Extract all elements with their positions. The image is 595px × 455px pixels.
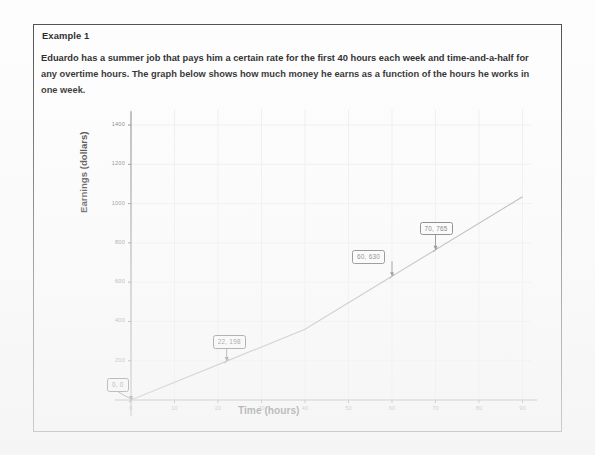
- x-tick-label: 60: [383, 405, 401, 411]
- data-point-callout: 70, 765: [420, 222, 453, 236]
- y-tick-label: 1400: [99, 121, 125, 127]
- problem-statement: Eduardo has a summer job that pays him a…: [41, 50, 547, 98]
- x-tick-label: 0: [122, 405, 140, 411]
- y-tick-label: 400: [99, 317, 125, 323]
- x-tick-label: 20: [209, 405, 227, 411]
- data-point-markers: [129, 248, 438, 403]
- y-tick-label: 600: [99, 278, 125, 284]
- earnings-chart: Earnings (dollars) Time (hours) 20040060…: [60, 105, 550, 425]
- page-title: Example 1: [42, 30, 89, 41]
- x-tick-label: 30: [253, 405, 271, 411]
- gridlines: [129, 109, 531, 404]
- data-point-callout: 60, 630: [352, 250, 385, 264]
- x-tick-label: 50: [340, 405, 358, 411]
- document-page: Example 1 Eduardo has a summer job that …: [0, 0, 595, 455]
- x-tick-label: 10: [166, 405, 184, 411]
- x-tick-label: 80: [470, 405, 488, 411]
- data-line: [131, 197, 523, 400]
- axes: [115, 111, 537, 416]
- axis-ticks: [128, 125, 523, 403]
- plot-area: [60, 105, 550, 425]
- y-tick-label: 1000: [99, 200, 125, 206]
- y-tick-label: 1200: [99, 160, 125, 166]
- x-tick-label: 90: [514, 405, 532, 411]
- y-tick-label: 200: [99, 357, 125, 363]
- x-tick-label: 70: [427, 405, 445, 411]
- x-tick-label: 40: [296, 405, 314, 411]
- callout-leaders: [113, 233, 438, 400]
- data-point-callout: 22, 198: [213, 335, 246, 349]
- y-tick-label: 800: [99, 239, 125, 245]
- data-point-callout: 0, 0: [107, 378, 129, 392]
